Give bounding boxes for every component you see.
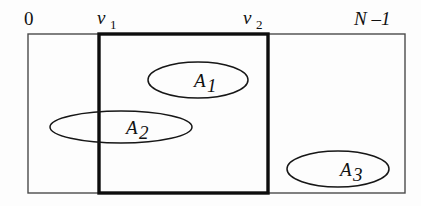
set-label-a2-subscript: 2 — [139, 122, 149, 143]
axis-label-window-start-subscript: 1 — [110, 17, 117, 32]
set-label-a3: A — [338, 159, 352, 180]
axis-label-start: 0 — [24, 8, 34, 29]
axis-label-window-end: v — [243, 7, 252, 28]
axis-label-end: N –1 — [353, 8, 390, 29]
axis-label-window-start: v — [97, 7, 106, 28]
set-label-a3-subscript: 3 — [352, 164, 363, 185]
axis-label-window-end-subscript: 2 — [256, 17, 263, 32]
set-label-a1: A — [192, 70, 206, 91]
set-label-a1-subscript: 1 — [207, 75, 217, 96]
set-ellipse-a3 — [287, 151, 389, 187]
set-label-a2: A — [124, 117, 138, 138]
window-region-rect — [99, 34, 268, 193]
interval-window-diagram: 0 v 1 v 2 N –1 A 1 A 2 A 3 — [0, 0, 421, 206]
set-ellipse-a2 — [50, 111, 192, 143]
figure-container: 0 v 1 v 2 N –1 A 1 A 2 A 3 — [0, 0, 421, 206]
